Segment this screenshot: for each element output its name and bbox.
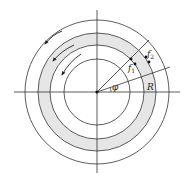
- f2-dot-b: [148, 61, 151, 64]
- phi-angle-arc: [110, 87, 111, 92]
- f1-dot-a: [130, 58, 133, 61]
- center-point: [95, 90, 98, 93]
- concentric-rings-diagram: f1 f2 R φ: [0, 0, 191, 183]
- label-f2: f2: [146, 49, 154, 60]
- label-phi: φ: [112, 82, 119, 92]
- outer-rotation-arrow-icon: [45, 31, 62, 44]
- label-R: R: [146, 82, 154, 92]
- f1-dot-b: [134, 63, 137, 66]
